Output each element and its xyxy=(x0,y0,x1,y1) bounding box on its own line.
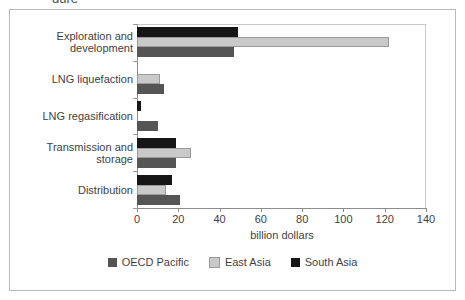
category-label-2: LNG regasification xyxy=(5,110,133,122)
chart-legend: OECD PacificEast AsiaSouth Asia xyxy=(9,256,456,268)
bar-east-asia-1 xyxy=(137,74,160,84)
x-tick-label-20: 20 xyxy=(158,213,198,225)
bar-oecd-pacific-3 xyxy=(137,158,176,168)
category-label-3: Transmission andstorage xyxy=(5,141,133,165)
x-axis-line xyxy=(137,208,427,209)
bar-oecd-pacific-0 xyxy=(137,47,234,57)
bar-oecd-pacific-2 xyxy=(137,121,158,131)
bar-south-asia-2 xyxy=(137,101,141,111)
legend-label: East Asia xyxy=(225,256,271,268)
x-tick-label-140: 140 xyxy=(406,213,446,225)
x-tick-label-120: 120 xyxy=(365,213,405,225)
legend-item-east-asia: East Asia xyxy=(209,256,271,268)
category-label-4: Distribution xyxy=(5,184,133,196)
category-label-line2: storage xyxy=(5,153,133,165)
category-tick-0 xyxy=(133,24,138,25)
x-tick-60 xyxy=(261,208,262,212)
x-tick-label-0: 0 xyxy=(117,213,157,225)
bar-east-asia-4 xyxy=(137,185,166,195)
bar-south-asia-3 xyxy=(137,138,176,148)
legend-swatch-icon xyxy=(108,258,117,267)
category-tick-2 xyxy=(133,98,138,99)
category-tick-3 xyxy=(133,134,138,135)
bar-east-asia-3 xyxy=(137,148,191,158)
bar-east-asia-0 xyxy=(137,37,389,47)
x-tick-100 xyxy=(343,208,344,212)
x-tick-40 xyxy=(220,208,221,212)
x-tick-label-80: 80 xyxy=(282,213,322,225)
x-tick-label-100: 100 xyxy=(323,213,363,225)
category-label-0: Exploration anddevelopment xyxy=(5,30,133,54)
category-label-line2: development xyxy=(5,42,133,54)
category-label-line1: LNG liquefaction xyxy=(5,73,133,85)
category-label-line1: LNG regasification xyxy=(5,110,133,122)
legend-item-oecd-pacific: OECD Pacific xyxy=(108,256,189,268)
x-tick-label-40: 40 xyxy=(200,213,240,225)
category-tick-1 xyxy=(133,61,138,62)
x-tick-120 xyxy=(385,208,386,212)
legend-label: OECD Pacific xyxy=(122,256,189,268)
legend-label: South Asia xyxy=(305,256,358,268)
category-tick-4 xyxy=(133,171,138,172)
bar-south-asia-4 xyxy=(137,175,172,185)
x-tick-140 xyxy=(426,208,427,212)
category-tick-end xyxy=(133,208,138,209)
legend-swatch-icon xyxy=(209,257,220,268)
x-tick-20 xyxy=(178,208,179,212)
x-tick-80 xyxy=(302,208,303,212)
category-label-line1: Distribution xyxy=(5,184,133,196)
bar-oecd-pacific-1 xyxy=(137,84,164,94)
x-axis-title: billion dollars xyxy=(137,229,427,241)
legend-item-south-asia: South Asia xyxy=(291,256,358,268)
bar-south-asia-0 xyxy=(137,27,238,37)
category-label-line1: Exploration and xyxy=(5,30,133,42)
x-tick-label-60: 60 xyxy=(241,213,281,225)
chart-figure: gure Exploration anddevelopmentLNG lique… xyxy=(0,0,465,300)
clipped-title: gure xyxy=(52,0,172,3)
category-label-line1: Transmission and xyxy=(5,141,133,153)
legend-swatch-icon xyxy=(291,258,300,267)
bar-oecd-pacific-4 xyxy=(137,195,180,205)
category-axis-labels: Exploration anddevelopmentLNG liquefacti… xyxy=(2,24,133,208)
category-label-1: LNG liquefaction xyxy=(5,73,133,85)
